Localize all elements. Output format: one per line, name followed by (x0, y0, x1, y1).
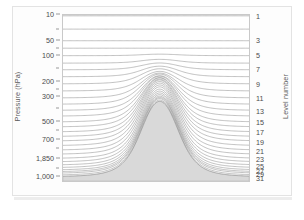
y-axis-tick-label: 700 (42, 135, 54, 144)
y-axis-tick-label: 1,850 (36, 154, 54, 163)
level-line-5 (63, 54, 249, 56)
level-number-tick-label: 9 (256, 79, 260, 88)
y-axis-minor-tick-mark (56, 167, 59, 168)
y-axis-tick-label: 200 (42, 77, 54, 86)
y-axis-tick-mark (56, 14, 60, 15)
level-number-tick-label: 7 (256, 65, 260, 74)
level-line-6 (63, 59, 249, 63)
level-number-tick-label: 31 (256, 173, 264, 182)
level-number-tick-label: 15 (256, 118, 264, 127)
y-axis-tick-group: 10501002003005007001,8501,000 (0, 14, 54, 182)
y-axis-tick-mark (56, 120, 60, 121)
y-axis-tick-mark (56, 81, 60, 82)
y-axis-tick-mark (56, 40, 60, 41)
level-number-tick-label: 19 (256, 137, 264, 146)
model-levels-plot (63, 15, 249, 181)
y-axis-tick-mark (56, 176, 60, 177)
y-axis-minor-tick-mark (56, 67, 59, 68)
level-number-tick-label: 1 (256, 11, 260, 20)
y-axis-tick-label: 500 (42, 116, 54, 125)
chart-figure: Pressure (hPa) Level number 105010020030… (0, 0, 304, 220)
level-line-8 (63, 66, 249, 76)
level-number-tick-group: 135791113151719212325272931 (256, 14, 282, 182)
y-axis-tick-mark (56, 158, 60, 159)
figure-card-shadow (14, 197, 292, 200)
y-axis-tick-mark (56, 139, 60, 140)
level-number-tick-label: 11 (256, 94, 263, 103)
plot-area (62, 14, 250, 182)
y-axis-minor-tick-mark (56, 88, 59, 89)
y-axis-tick-mark (56, 96, 60, 97)
y-axis-minor-tick-mark (56, 48, 59, 49)
level-number-tick-label: 17 (256, 128, 264, 137)
level-number-tick-label: 3 (256, 36, 260, 45)
y-axis-tick-label: 300 (42, 92, 54, 101)
y-axis-minor-tick-mark (56, 129, 59, 130)
y-axis-minor-tick-mark (56, 29, 59, 30)
y-axis-minor-tick-mark (56, 148, 59, 149)
y-axis-tick-mark (56, 55, 60, 56)
y-axis-tick-label: 10 (46, 10, 54, 19)
level-number-tick-label: 5 (256, 51, 260, 60)
level-number-tick-label: 13 (256, 106, 264, 115)
y-axis-minor-tick-mark (56, 108, 59, 109)
y-axis-tick-label: 100 (42, 51, 54, 60)
y-axis-tick-label: 50 (46, 36, 54, 45)
y-axis-tick-label: 1,000 (36, 172, 54, 181)
